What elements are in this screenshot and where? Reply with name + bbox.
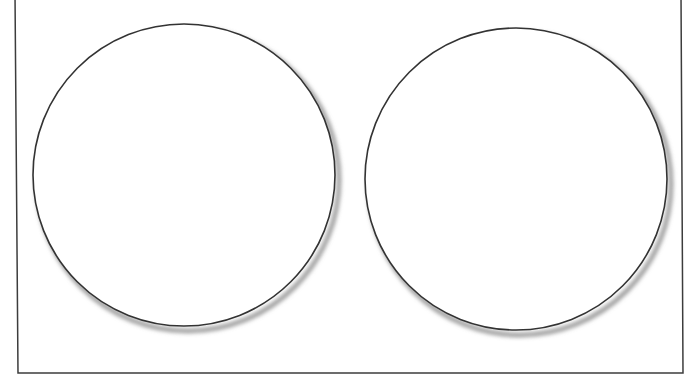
figure-canvas: Two circles inside a rectangular frame bbox=[0, 0, 697, 380]
right-circle-group bbox=[365, 28, 671, 335]
left-circle-group bbox=[33, 24, 339, 331]
left-circle[interactable] bbox=[33, 24, 335, 326]
two-circles-figure: Two circles inside a rectangular frame bbox=[0, 0, 697, 380]
right-circle[interactable] bbox=[365, 28, 667, 330]
